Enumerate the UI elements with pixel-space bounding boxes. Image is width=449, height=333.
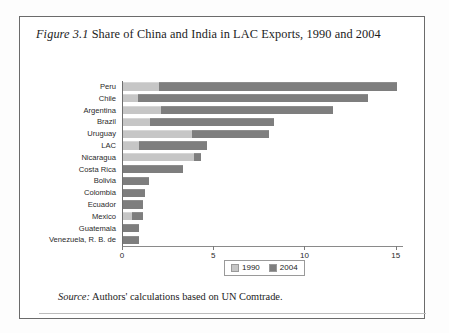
category-label: Peru	[16, 81, 116, 93]
bar-stack	[123, 189, 145, 197]
category-label: Ecuador	[16, 199, 116, 211]
bar-row	[122, 116, 407, 128]
chart-legend: 19902004	[224, 260, 305, 276]
figure-page: Figure 3.1 Share of China and India in L…	[0, 0, 449, 333]
bar-stack	[123, 200, 143, 208]
bar-segment-2004	[123, 224, 139, 232]
category-label: Chile	[16, 93, 116, 105]
legend-swatch-1990	[231, 264, 239, 272]
bar-segment-2004	[123, 165, 183, 173]
figure-title: Figure 3.1 Share of China and India in L…	[36, 27, 404, 42]
bar-segment-2004	[132, 212, 143, 220]
category-label: Colombia	[16, 187, 116, 199]
source-text: Authors' calculations based on UN Comtra…	[90, 291, 283, 302]
bar-stack	[123, 165, 183, 173]
bar-row	[122, 140, 407, 152]
category-label: Mexico	[16, 211, 116, 223]
bar-row	[122, 175, 407, 187]
bar-stack	[123, 177, 149, 185]
bar-segment-2004	[150, 118, 274, 126]
bar-row	[122, 199, 407, 211]
bar-group	[122, 81, 407, 246]
bar-stack	[123, 212, 143, 220]
bar-segment-2004	[123, 177, 149, 185]
bar-row	[122, 187, 407, 199]
bar-row	[122, 152, 407, 164]
category-label: Brazil	[16, 116, 116, 128]
x-tick-label: 10	[300, 251, 309, 260]
legend-entry: 2004	[269, 263, 298, 272]
legend-swatch-2004	[269, 264, 277, 272]
bar-stack	[123, 118, 274, 126]
x-tick-label: 15	[391, 251, 400, 260]
bar-stack	[123, 106, 333, 114]
bar-segment-1990	[123, 212, 132, 220]
bar-row	[122, 234, 407, 246]
legend-label: 1990	[242, 263, 260, 272]
category-label: Argentina	[16, 105, 116, 117]
bar-stack	[123, 130, 269, 138]
bar-stack	[123, 141, 207, 149]
legend-entry: 1990	[231, 263, 260, 272]
bar-segment-1990	[123, 82, 159, 90]
category-label: Uruguay	[16, 128, 116, 140]
x-tick-mark	[213, 246, 214, 250]
source-note: Source: Authors' calculations based on U…	[58, 291, 283, 302]
bar-row	[122, 223, 407, 235]
bar-row	[122, 105, 407, 117]
bar-row	[122, 128, 407, 140]
bar-stack	[123, 224, 139, 232]
x-tick-mark	[122, 246, 123, 250]
x-tick-label: 0	[120, 251, 124, 260]
category-label: Bolivia	[16, 175, 116, 187]
bar-segment-2004	[192, 130, 269, 138]
figure-frame: Figure 3.1 Share of China and India in L…	[19, 16, 425, 319]
bar-row	[122, 81, 407, 93]
x-tick-mark	[304, 246, 305, 250]
bar-stack	[123, 94, 368, 102]
bar-segment-2004	[123, 236, 139, 244]
bar-stack	[123, 82, 397, 90]
category-label: LAC	[16, 140, 116, 152]
figure-title-text: Share of China and India in LAC Exports,…	[88, 27, 380, 41]
bar-stack	[123, 153, 201, 161]
bar-segment-1990	[123, 153, 194, 161]
source-divider	[39, 313, 426, 314]
x-tick-mark	[396, 246, 397, 250]
bar-segment-2004	[194, 153, 201, 161]
bar-segment-1990	[123, 141, 139, 149]
bar-segment-1990	[123, 106, 161, 114]
bar-segment-1990	[123, 94, 138, 102]
category-label: Nicaragua	[16, 152, 116, 164]
bar-row	[122, 211, 407, 223]
legend-label: 2004	[280, 263, 298, 272]
bar-row	[122, 164, 407, 176]
bar-segment-2004	[139, 141, 207, 149]
bar-segment-2004	[138, 94, 368, 102]
bar-stack	[123, 236, 139, 244]
bar-row	[122, 93, 407, 105]
bar-segment-2004	[161, 106, 333, 114]
category-label: Guatemala	[16, 223, 116, 235]
category-label: Venezuela, R. B. de	[16, 234, 116, 246]
plot-area: 051015 percent	[122, 81, 407, 246]
figure-number: Figure 3.1	[36, 27, 88, 41]
x-tick-label: 5	[211, 251, 215, 260]
bar-segment-2004	[123, 189, 145, 197]
source-label: Source:	[58, 291, 90, 302]
bar-segment-2004	[123, 200, 143, 208]
category-label: Costa Rica	[16, 164, 116, 176]
bar-segment-1990	[123, 130, 192, 138]
category-axis-labels: PeruChileArgentinaBrazilUruguayLACNicara…	[16, 81, 116, 246]
bar-segment-1990	[123, 118, 150, 126]
bar-segment-2004	[159, 82, 396, 90]
